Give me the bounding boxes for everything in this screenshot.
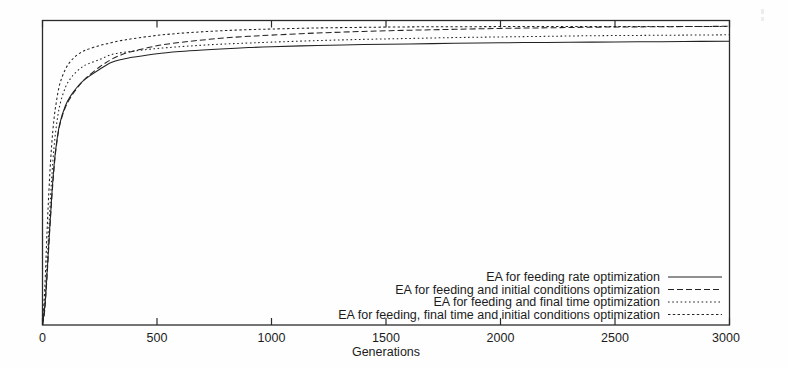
x-tick-label: 2000 <box>487 331 515 345</box>
x-tick-label: 3000 <box>712 331 740 345</box>
x-tick-label: 1000 <box>258 331 286 345</box>
x-tick-label: 500 <box>147 331 168 345</box>
figure-container: 0 500 1000 1500 2000 2500 3000 Generatio… <box>0 0 788 369</box>
legend-label: EA for feeding, final time and initial c… <box>338 308 660 322</box>
legend: EA for feeding rate optimization EA for … <box>338 270 722 322</box>
line-chart: 0 500 1000 1500 2000 2500 3000 Generatio… <box>0 0 788 369</box>
x-tick-label: 1500 <box>372 331 400 345</box>
x-tick-labels: 0 500 1000 1500 2000 2500 3000 <box>39 331 740 345</box>
scan-artifact <box>761 9 764 14</box>
x-axis-title: Generations <box>352 345 420 359</box>
x-tick-label: 2500 <box>601 331 629 345</box>
scan-artifact <box>761 17 764 21</box>
x-tick-label: 0 <box>39 331 46 345</box>
